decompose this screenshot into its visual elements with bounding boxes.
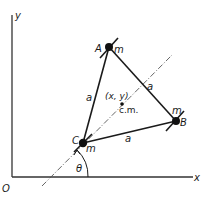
mass-C-m-label: m: [86, 143, 96, 154]
mass-B-dot: [172, 117, 180, 125]
symmetry-axis-line: [42, 55, 172, 186]
x-axis-label: x: [193, 172, 200, 183]
triangle-rigid-body-diagram: y x O A m B m C m a a a (x, y) c.m. θ: [0, 0, 204, 199]
mass-A-dot: [105, 43, 113, 51]
origin-label: O: [2, 183, 10, 194]
mass-B-m-label: m: [172, 105, 182, 116]
center-of-mass-coord-label: (x, y): [105, 91, 128, 101]
edge-AB-label: a: [147, 81, 153, 92]
mass-C-label: C: [72, 135, 79, 146]
center-of-mass-label: c.m.: [119, 105, 138, 115]
mass-A-m-label: m: [114, 44, 124, 55]
theta-label: θ: [76, 163, 82, 174]
mass-A-label: A: [94, 43, 102, 54]
mass-B-label: B: [180, 117, 187, 128]
edge-CA-label: a: [86, 92, 92, 103]
edge-CB-label: a: [125, 133, 131, 144]
y-axis-label: y: [14, 10, 22, 21]
